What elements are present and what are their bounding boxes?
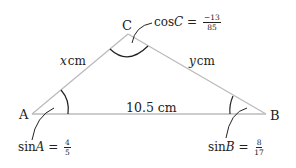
cos-c-prefix: cos (154, 15, 174, 29)
cos-c-eq: = (183, 15, 201, 29)
sin-a-denominator: 5 (65, 148, 70, 156)
sin-b-denominator: 17 (254, 148, 264, 156)
cos-c-fraction: −1385 (203, 14, 221, 31)
sin-b-prefix: sin (208, 140, 226, 154)
angle-arc-c (110, 46, 148, 57)
side-ac-var: x (60, 54, 67, 68)
vertex-label-b: B (270, 109, 280, 122)
cos-c-numerator: −13 (203, 14, 221, 23)
sin-a-numerator: 4 (64, 139, 71, 148)
sin-a-prefix: sin (18, 140, 36, 154)
side-ac (32, 34, 128, 114)
side-label-ac: xcm (60, 55, 86, 67)
side-ac-unit: cm (68, 54, 86, 68)
annotation-sin-a: sinA = 45 (18, 139, 71, 156)
triangle-diagram: A B C xcm ycm 10.5 cm sinA = 45 sinB = 8… (0, 0, 296, 168)
cos-c-var: C (174, 15, 183, 29)
angle-arc-a (61, 90, 68, 114)
leader-line-c (132, 23, 152, 43)
annotation-sin-b: sinB = 817 (208, 139, 264, 156)
sin-b-var: B (226, 140, 235, 154)
vertex-label-a: A (19, 108, 28, 121)
leader-line-b (226, 108, 247, 138)
sin-a-eq: = (44, 140, 62, 154)
sin-b-fraction: 817 (254, 139, 264, 156)
sin-b-numerator: 8 (256, 139, 263, 148)
leader-line-a (32, 108, 54, 140)
angle-arc-b (230, 96, 233, 114)
cos-c-denominator: 85 (207, 23, 217, 31)
sin-a-fraction: 45 (64, 139, 71, 156)
side-label-bc: ycm (189, 55, 215, 67)
side-bc-unit: cm (197, 54, 215, 68)
vertex-label-c: C (122, 19, 132, 32)
sin-b-eq: = (235, 140, 253, 154)
annotation-cos-c: cosC = −1385 (154, 14, 221, 31)
side-bc-var: y (189, 54, 196, 68)
side-label-ab: 10.5 cm (126, 102, 177, 115)
